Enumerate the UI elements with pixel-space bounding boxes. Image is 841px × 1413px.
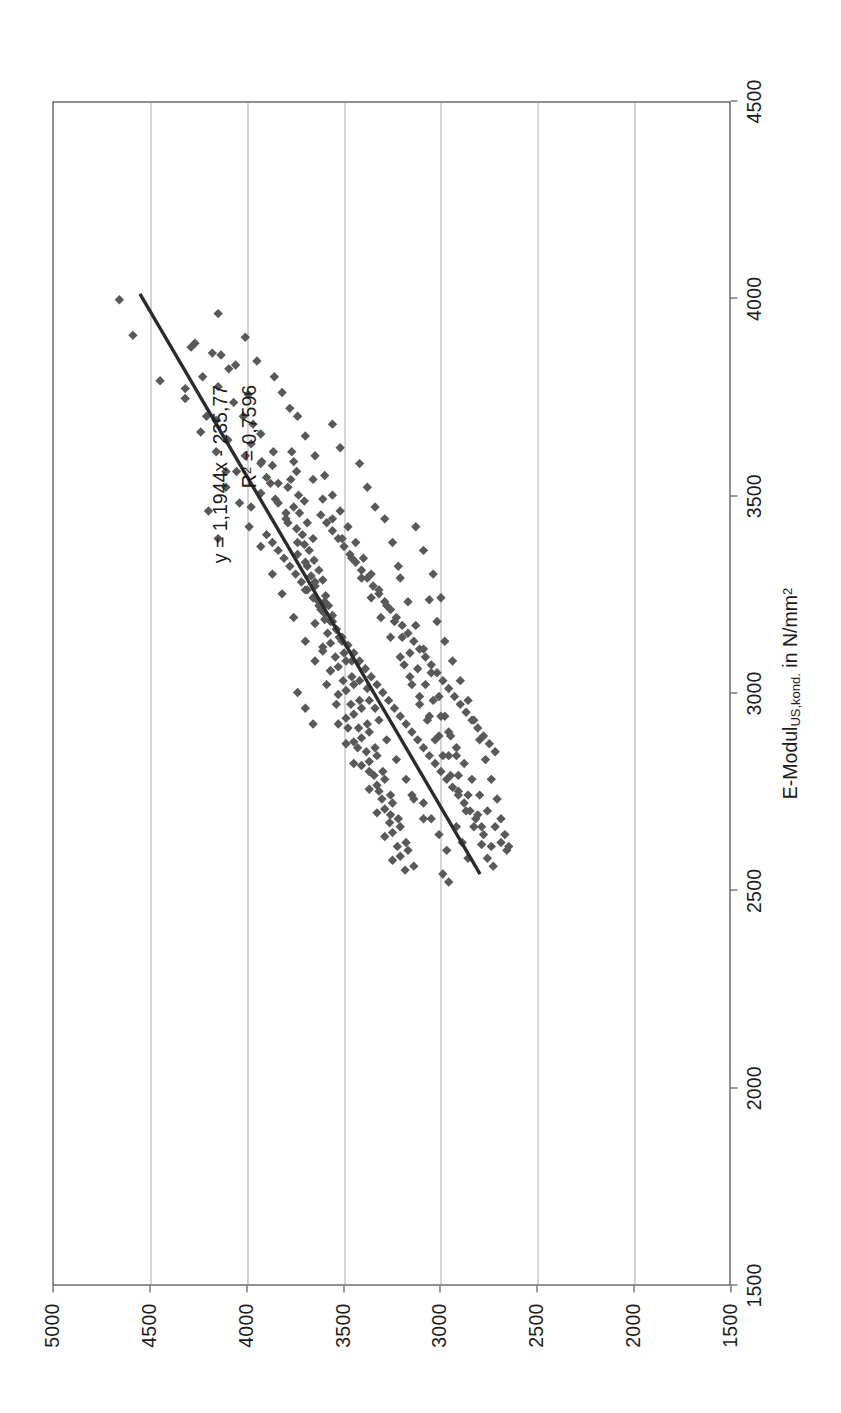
x-tick-2500 <box>730 889 737 890</box>
y-tick-2000 <box>633 1285 634 1292</box>
x-tick-label-3500: 3500 <box>742 474 765 518</box>
x-axis-title-exponent: 2 <box>779 587 794 594</box>
x-axis-title: E-ModulUS,kond. in N/mm2 <box>778 587 802 798</box>
y-tick-label-5000: 5000 <box>41 1303 64 1413</box>
x-axis-title-suffix: in N/mm <box>778 595 800 673</box>
y-tick-label-3000: 3000 <box>428 1303 451 1413</box>
y-tick-2500 <box>536 1285 537 1292</box>
x-tick-label-4000: 4000 <box>742 276 765 320</box>
x-tick-label-4500: 4500 <box>742 79 765 123</box>
y-tick-3500 <box>343 1285 344 1292</box>
x-tick-label-2000: 2000 <box>742 1066 765 1110</box>
x-tick-3500 <box>730 495 737 496</box>
y-tick-3000 <box>439 1285 440 1292</box>
y-tick-label-4500: 4500 <box>137 1303 160 1413</box>
x-axis-title-prefix: E-Modul <box>778 726 800 799</box>
x-axis-title-subscript: US,kond. <box>787 673 802 726</box>
y-tick-label-1500: 1500 <box>719 1303 742 1413</box>
r-squared-exponent: 2 <box>238 466 253 473</box>
x-tick-1500 <box>730 1284 737 1285</box>
x-tick-2000 <box>730 1087 737 1088</box>
scatter-figure: 1500200025003000350040004500500015002000… <box>0 0 841 1413</box>
x-tick-4000 <box>730 297 737 298</box>
x-tick-label-1500: 1500 <box>742 1263 765 1307</box>
y-tick-1500 <box>730 1285 731 1292</box>
x-tick-4500 <box>730 100 737 101</box>
axis-layer: 1500200025003000350040004500500015002000… <box>0 0 841 1413</box>
x-tick-label-2500: 2500 <box>742 868 765 912</box>
r-squared-label: R <box>237 474 259 488</box>
y-tick-label-3500: 3500 <box>331 1303 354 1413</box>
y-tick-label-2500: 2500 <box>525 1303 548 1413</box>
trendline-equation-annotation: y = 1,1944x - 235,77 R2 = 0,7596 <box>205 384 264 562</box>
x-tick-label-3000: 3000 <box>742 671 765 715</box>
y-tick-label-4000: 4000 <box>234 1303 257 1413</box>
y-tick-4500 <box>149 1285 150 1292</box>
y-tick-label-2000: 2000 <box>622 1303 645 1413</box>
rotated-figure-wrapper: 1500200025003000350040004500500015002000… <box>0 0 841 1413</box>
r-squared-line: R2 = 0,7596 <box>234 384 263 562</box>
x-tick-3000 <box>730 692 737 693</box>
equation-line: y = 1,1944x - 235,77 <box>205 384 234 562</box>
chart-page: 1500200025003000350040004500500015002000… <box>0 0 841 1413</box>
y-tick-5000 <box>52 1285 53 1292</box>
r-squared-value: = 0,7596 <box>237 384 259 466</box>
y-tick-4000 <box>246 1285 247 1292</box>
